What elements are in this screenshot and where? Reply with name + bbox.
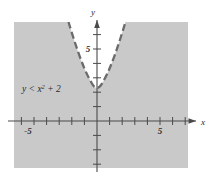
- shaded-region: [14, 22, 188, 168]
- svg-text:y < x2 + 2: y < x2 + 2: [21, 83, 61, 95]
- coordinate-plane-svg: -5 5 5 x y y < x2 + 2: [0, 0, 213, 189]
- x-tick-label-5: 5: [158, 126, 163, 136]
- x-tick-label-neg5: -5: [24, 126, 32, 136]
- y-tick-label-5: 5: [86, 44, 91, 54]
- x-axis-label: x: [200, 117, 205, 127]
- inequality-main-text: y < x: [21, 84, 42, 94]
- y-axis-label: y: [90, 7, 95, 17]
- inequality-graph-figure: -5 5 5 x y y < x2 + 2: [0, 0, 213, 189]
- inequality-tail: + 2: [45, 84, 61, 94]
- inequality-annotation: y < x2 + 2: [21, 83, 61, 95]
